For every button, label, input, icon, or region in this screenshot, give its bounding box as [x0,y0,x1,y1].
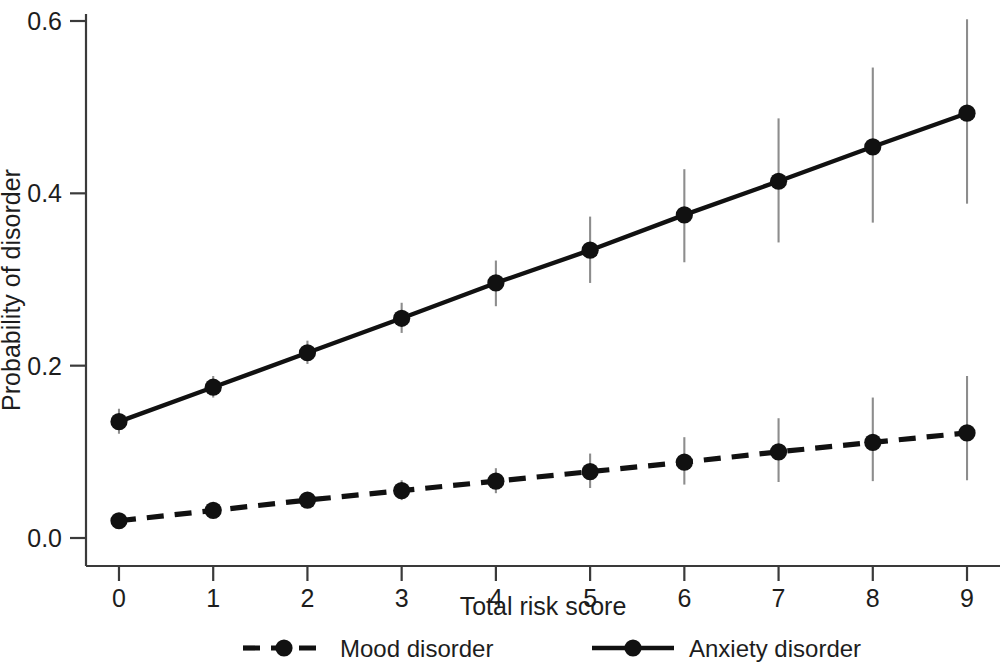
legend-label: Mood disorder [340,635,493,662]
y-tick-label: 0.0 [27,524,62,552]
data-point-marker [110,413,127,430]
x-tick-label: 7 [772,584,786,612]
y-tick-label: 0.6 [27,7,62,35]
y-tick-label: 0.4 [27,179,62,207]
x-axis-title: Total risk score [460,592,627,620]
x-tick-label: 8 [866,584,880,612]
legend-swatch-marker [275,639,292,656]
data-point-marker [299,491,316,508]
data-point-marker [487,274,504,291]
legend-label: Anxiety disorder [689,635,861,662]
data-point-marker [958,424,975,441]
data-point-marker [582,242,599,259]
data-point-marker [582,463,599,480]
data-point-marker [487,473,504,490]
data-point-marker [205,379,222,396]
x-tick-label: 1 [206,584,220,612]
x-tick-label: 0 [112,584,126,612]
data-point-marker [393,482,410,499]
x-tick-label: 6 [677,584,691,612]
data-point-marker [205,502,222,519]
data-point-marker [770,443,787,460]
y-tick-label: 0.2 [27,352,62,380]
data-point-marker [958,105,975,122]
data-point-marker [393,310,410,327]
data-point-marker [676,454,693,471]
x-tick-label: 3 [395,584,409,612]
legend-swatch-marker [624,639,641,656]
data-point-marker [864,138,881,155]
x-tick-label: 2 [300,584,314,612]
probability-of-disorder-chart: 0.00.20.40.6 0123456789 Probability of d… [0,0,1006,667]
y-axis-title: Probability of disorder [0,169,25,411]
data-point-marker [676,206,693,223]
data-point-marker [770,173,787,190]
data-point-marker [299,344,316,361]
x-tick-label: 9 [960,584,974,612]
data-point-marker [864,434,881,451]
data-point-marker [110,512,127,529]
